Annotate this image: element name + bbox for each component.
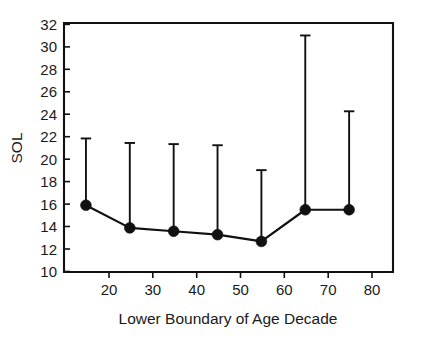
y-tick-label: 18 — [40, 173, 57, 190]
x-tick-label: 30 — [144, 281, 161, 298]
data-point-marker — [256, 236, 267, 247]
data-point-marker — [300, 204, 311, 215]
y-tick-label: 30 — [40, 38, 57, 55]
chart-figure: 10 12 14 16 18 20 22 24 26 28 30 32 SOL — [0, 0, 429, 343]
y-tick-label: 22 — [40, 128, 57, 145]
x-tick-label: 80 — [364, 281, 381, 298]
x-tick-label: 60 — [276, 281, 293, 298]
data-point-marker — [168, 226, 179, 237]
y-tick-label: 32 — [40, 16, 57, 33]
y-tick-label: 12 — [40, 241, 57, 258]
y-tick-label: 24 — [40, 106, 57, 123]
sol-vs-age-decade-chart: 10 12 14 16 18 20 22 24 26 28 30 32 SOL — [0, 0, 429, 343]
data-point-marker — [124, 222, 135, 233]
y-axis-title: SOL — [8, 132, 25, 163]
x-axis-title: Lower Boundary of Age Decade — [119, 310, 338, 327]
x-tick-label: 70 — [320, 281, 337, 298]
x-tick-label: 50 — [232, 281, 249, 298]
data-point-marker — [344, 204, 355, 215]
y-tick-label: 14 — [40, 218, 57, 235]
y-tick-label: 16 — [40, 196, 57, 213]
x-tick-label: 20 — [101, 281, 118, 298]
y-tick-label: 26 — [40, 83, 57, 100]
y-tick-label: 28 — [40, 61, 57, 78]
x-tick-label: 40 — [188, 281, 205, 298]
y-tick-label: 10 — [40, 263, 57, 280]
data-point-marker — [81, 200, 92, 211]
data-point-marker — [212, 229, 223, 240]
y-tick-label: 20 — [40, 151, 57, 168]
